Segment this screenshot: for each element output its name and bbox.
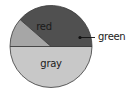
pie-slices	[10, 6, 92, 88]
label-green: green	[98, 32, 125, 42]
label-gray: gray	[40, 59, 61, 69]
label-red: red	[36, 22, 52, 32]
pie-chart	[0, 0, 132, 92]
